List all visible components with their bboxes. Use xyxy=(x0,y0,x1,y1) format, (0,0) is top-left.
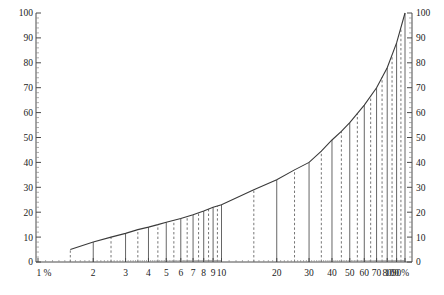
y-axis-left-tick-label: 40 xyxy=(24,158,34,168)
solid-vertical-lines xyxy=(93,13,405,262)
x-axis-tick-label: 2 xyxy=(91,268,96,278)
y-axis-right-tick-label: 40 xyxy=(416,158,426,168)
y-axis-right-tick-label: 70 xyxy=(416,83,426,93)
y-axis-right-tick-label: 50 xyxy=(416,133,426,143)
chart-figure: 0102030405060708090100 01020304050607080… xyxy=(0,0,444,295)
y-axis-left-tick-label: 30 xyxy=(24,183,34,193)
y-axis-right-tick-label: 80 xyxy=(416,58,426,68)
y-axis-left-tick-label: 10 xyxy=(24,233,34,243)
data-curve xyxy=(70,13,405,250)
x-axis-bottom xyxy=(36,258,412,262)
y-axis-right-tick-label: 60 xyxy=(416,108,426,118)
y-axis-left-labels: 0102030405060708090100 xyxy=(19,8,34,267)
y-axis-right-tick-label: 10 xyxy=(416,233,426,243)
y-axis-right-tick-label: 30 xyxy=(416,183,426,193)
x-axis-tick-label: 6 xyxy=(178,268,183,278)
x-axis-tick-label: 1 % xyxy=(36,268,51,278)
y-axis-right-tick-label: 0 xyxy=(416,257,421,267)
y-axis-right xyxy=(407,13,412,262)
x-axis-tick-label: 10 xyxy=(217,268,227,278)
x-axis-tick-label: 3 xyxy=(123,268,128,278)
y-axis-left-tick-label: 60 xyxy=(24,108,34,118)
x-axis-tick-label: 9 xyxy=(211,268,216,278)
x-axis-tick-label: 7 xyxy=(191,268,196,278)
x-axis-tick-label: 50 xyxy=(345,268,355,278)
y-axis-right-labels: 0102030405060708090100 xyxy=(416,8,431,267)
x-axis-tick-label: 70 xyxy=(372,268,382,278)
y-axis-right-tick-label: 100 xyxy=(416,8,431,18)
x-axis-tick-label: 30 xyxy=(304,268,314,278)
y-axis-left xyxy=(36,13,41,262)
y-axis-left-tick-label: 0 xyxy=(28,257,33,267)
y-axis-left-tick-label: 100 xyxy=(19,8,34,18)
x-axis-tick-label: 20 xyxy=(272,268,282,278)
x-axis-tick-label: 5 xyxy=(164,268,169,278)
curve-path xyxy=(70,13,405,250)
y-axis-right-tick-label: 20 xyxy=(416,208,426,218)
y-axis-left-tick-label: 50 xyxy=(24,133,34,143)
y-axis-left-tick-label: 90 xyxy=(24,33,34,43)
x-axis-tick-label: 4 xyxy=(146,268,151,278)
x-axis-tick-label: 60 xyxy=(360,268,370,278)
x-axis-tick-label: 40 xyxy=(327,268,337,278)
log-percentage-chart: 0102030405060708090100 01020304050607080… xyxy=(0,0,444,295)
y-axis-right-tick-label: 90 xyxy=(416,33,426,43)
x-axis-labels: 1 %23456789102030405060708090100 % xyxy=(36,268,409,278)
y-axis-left-tick-label: 20 xyxy=(24,208,34,218)
y-axis-left-tick-label: 70 xyxy=(24,83,34,93)
x-axis-tick-label: 100 % xyxy=(385,268,410,278)
y-axis-left-tick-label: 80 xyxy=(24,58,34,68)
x-axis-tick-label: 8 xyxy=(201,268,206,278)
dashed-vertical-lines xyxy=(70,28,401,262)
